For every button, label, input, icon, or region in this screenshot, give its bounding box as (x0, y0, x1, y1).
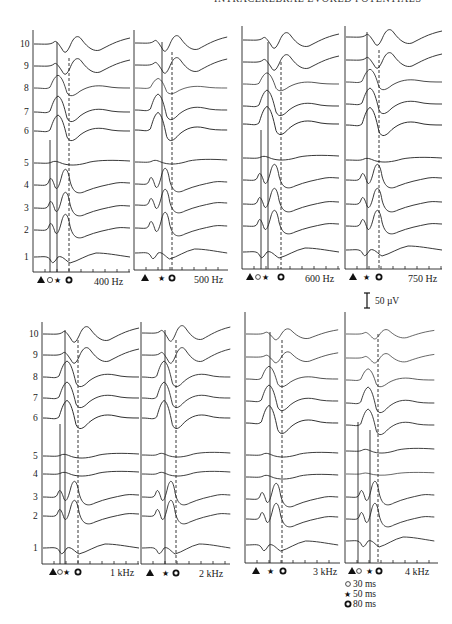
legend-50ms: 50 ms (353, 589, 376, 599)
open-circle-marker-icon (58, 570, 63, 575)
bold-circle-marker-icon (66, 277, 71, 282)
latency-markers-3khz: ★ (252, 567, 286, 576)
bold-circle-marker-icon (280, 568, 285, 573)
latency-legend: 30 ms ★ 50 ms 80 ms (344, 579, 376, 609)
freq-label-1khz: 1 kHz (110, 567, 135, 578)
star-marker-icon: ★ (158, 274, 165, 283)
freq-label-400hz: 400 Hz (94, 276, 124, 287)
triangle-marker-icon (141, 274, 149, 281)
trace-label-9: 9 (24, 61, 29, 71)
panel-2khz: ★ 2 kHz (141, 322, 230, 579)
open-circle-marker-icon (357, 569, 362, 574)
star-marker-icon: ★ (267, 567, 274, 576)
trace-label-5: 5 (33, 451, 38, 461)
bold-circle-marker-icon (376, 274, 381, 279)
trace-label-3: 3 (33, 492, 38, 502)
star-marker-icon: ★ (63, 568, 70, 577)
freq-label-750hz: 750 Hz (408, 273, 438, 284)
latency-markers-500hz: ★ (141, 274, 175, 283)
trace-label-1: 1 (33, 543, 38, 553)
triangle-marker-icon (146, 569, 154, 576)
freq-label-600hz: 600 Hz (305, 273, 335, 284)
latency-markers-4khz: ★ (348, 567, 382, 576)
bold-circle-marker-icon (376, 568, 381, 573)
trace-label-2: 2 (24, 225, 29, 235)
trace-label-8: 8 (33, 372, 38, 382)
latency-markers-1khz: ★ (49, 568, 81, 577)
open-circle-marker-icon (256, 275, 261, 280)
trace-label-1: 1 (24, 252, 29, 262)
latency-markers-600hz: ★ (246, 273, 284, 282)
trace-label-3: 3 (24, 203, 29, 213)
panel-1khz: ★ 1 kHz (42, 322, 139, 578)
trace-label-8: 8 (24, 83, 29, 93)
panel-500hz: ★ 500 Hz (134, 30, 228, 285)
trace-label-4: 4 (33, 469, 38, 479)
trace-labels-top: 10 9 8 7 6 5 4 3 2 1 (20, 39, 30, 262)
panel-3khz: ★ 3 kHz (245, 312, 340, 577)
open-circle-icon (346, 582, 351, 587)
open-circle-marker-icon (47, 277, 52, 282)
panel-600hz: ★ 600 Hz (242, 26, 340, 284)
triangle-marker-icon (348, 567, 356, 574)
trace-label-5: 5 (24, 158, 29, 168)
panel-4khz: ★ 4 kHz (345, 312, 438, 577)
trace-label-7: 7 (33, 393, 38, 403)
trace-label-6: 6 (24, 126, 29, 136)
trace-label-7: 7 (24, 107, 29, 117)
legend-30ms: 30 ms (353, 579, 376, 589)
panel-400hz: ★ 400 Hz (33, 30, 130, 287)
freq-label-500hz: 500 Hz (194, 274, 224, 285)
freq-label-3khz: 3 kHz (313, 566, 338, 577)
trace-label-2: 2 (33, 511, 38, 521)
bold-circle-marker-icon (278, 274, 283, 279)
legend-80ms: 80 ms (353, 599, 376, 609)
bold-circle-icon (345, 601, 350, 606)
trace-label-9: 9 (33, 350, 38, 360)
star-marker-icon: ★ (366, 567, 373, 576)
trace-label-6: 6 (33, 413, 38, 423)
star-marker-icon: ★ (54, 276, 61, 285)
triangle-marker-icon (37, 276, 45, 283)
bold-circle-marker-icon (169, 275, 174, 280)
trace-label-10: 10 (29, 329, 39, 339)
panel-750hz: ★ 750 Hz (345, 26, 442, 284)
triangle-marker-icon (246, 273, 254, 280)
scale-bar: 50 µV (364, 293, 399, 308)
bold-circle-marker-icon (75, 569, 80, 574)
trace-label-10: 10 (20, 39, 30, 49)
bold-circle-marker-icon (173, 570, 178, 575)
triangle-marker-icon (349, 273, 357, 280)
latency-markers-750hz: ★ (349, 273, 382, 282)
trace-label-4: 4 (24, 180, 29, 190)
triangle-marker-icon (252, 567, 260, 574)
latency-markers-400hz: ★ (37, 276, 72, 285)
freq-label-2khz: 2 kHz (199, 568, 224, 579)
star-marker-icon: ★ (363, 273, 370, 282)
star-marker-icon: ★ (262, 273, 269, 282)
trace-labels-bottom: 10 9 8 7 6 5 4 3 2 1 (29, 329, 39, 553)
scale-bar-label: 50 µV (375, 296, 399, 306)
freq-label-4khz: 4 kHz (405, 566, 430, 577)
evoked-potentials-figure: 10 9 8 7 6 5 4 3 2 1 ★ (0, 0, 452, 624)
triangle-marker-icon (49, 568, 57, 575)
star-icon: ★ (344, 590, 351, 599)
star-marker-icon: ★ (162, 569, 169, 578)
latency-markers-2khz: ★ (146, 569, 179, 578)
